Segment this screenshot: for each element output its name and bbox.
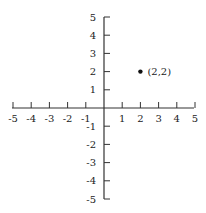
y-tick-label: 3 xyxy=(90,48,96,59)
x-tick-label: 3 xyxy=(155,113,161,124)
y-tick-label: -1 xyxy=(86,121,96,132)
x-ticks: -5-4-3-2-112345 xyxy=(8,102,198,124)
y-tick-label: -5 xyxy=(86,194,96,205)
x-tick-label: 5 xyxy=(192,113,198,124)
x-tick-label: -2 xyxy=(63,113,73,124)
x-tick-label: 1 xyxy=(119,113,125,124)
data-points: (2,2) xyxy=(138,66,171,77)
y-tick-label: 2 xyxy=(90,66,96,77)
x-tick-label: -3 xyxy=(45,113,55,124)
x-tick-label: 2 xyxy=(137,113,143,124)
coordinate-plane: -5-4-3-2-112345 54321-1-2-3-4-5 (2,2) xyxy=(0,0,206,213)
y-tick-label: 1 xyxy=(90,84,96,95)
y-tick-label: -2 xyxy=(86,139,96,150)
y-tick-label: -4 xyxy=(86,175,96,186)
x-tick-label: -4 xyxy=(26,113,36,124)
point-label: (2,2) xyxy=(147,66,171,77)
y-tick-label: 5 xyxy=(90,12,96,23)
y-tick-label: 4 xyxy=(90,30,96,41)
x-tick-label: -5 xyxy=(8,113,18,124)
y-tick-label: -3 xyxy=(86,157,96,168)
data-point xyxy=(138,69,142,73)
x-tick-label: 4 xyxy=(174,113,180,124)
